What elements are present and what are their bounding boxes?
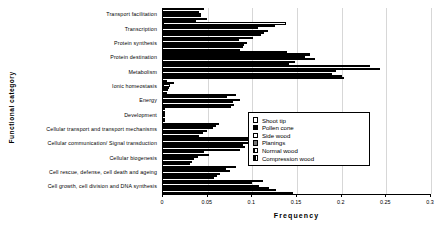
legend-swatch-icon (253, 133, 258, 138)
legend-item[interactable]: Shoot tip (253, 117, 365, 124)
category-label: Cellular biogenesis (4, 151, 160, 165)
x-axis-tick-label: 0.1 (248, 199, 256, 205)
legend-label: Side wood (262, 132, 290, 139)
x-axis-tick-label: 0.25 (380, 199, 391, 205)
category-label: Transport facilitation (4, 8, 160, 22)
legend-swatch-icon (253, 140, 258, 145)
bar-group (163, 94, 430, 108)
legend-label: Planings (262, 139, 285, 146)
bar-group (163, 22, 430, 36)
bar-group (163, 51, 430, 65)
legend: Shoot tipPollen coneSide woodPlaningsNor… (248, 112, 370, 166)
legend-item[interactable]: Compression wood (253, 155, 365, 162)
category-label: Ionic homeostasis (4, 80, 160, 94)
x-axis-tick (207, 194, 208, 197)
category-label: Transcription (4, 22, 160, 36)
bar-group (163, 180, 430, 194)
legend-item[interactable]: Pollen cone (253, 124, 365, 131)
legend-swatch-icon (253, 125, 258, 130)
y-axis-category-labels: Transport facilitationTranscriptionProte… (4, 8, 160, 194)
bar-group (163, 165, 430, 179)
category-label: Cell rescue, defense, cell death and age… (4, 165, 160, 179)
x-axis-tick (162, 194, 163, 197)
legend-swatch-icon (253, 148, 258, 153)
x-axis-tick-label: 0.15 (291, 199, 302, 205)
legend-label: Normal wood (262, 147, 298, 154)
category-label: Metabolism (4, 65, 160, 79)
bar-group (163, 8, 430, 22)
bar-chart: Functional category Transport facilitati… (0, 0, 437, 251)
category-label: Cellular communication/ Signal transduct… (4, 137, 160, 151)
x-axis-tick (296, 194, 297, 197)
legend-item[interactable]: Normal wood (253, 147, 365, 154)
category-label: Development (4, 108, 160, 122)
legend-label: Pollen cone (262, 124, 294, 131)
x-axis-tick-label: 0 (161, 199, 164, 205)
legend-item[interactable]: Planings (253, 139, 365, 146)
legend-swatch-icon (253, 117, 258, 122)
legend-label: Shoot tip (262, 117, 286, 124)
x-axis-tick (430, 194, 431, 197)
x-axis-tick-label: 0.2 (337, 199, 345, 205)
x-axis-tick-label: 0.05 (201, 199, 212, 205)
legend-swatch-icon (253, 155, 258, 160)
bar-group (163, 37, 430, 51)
category-label: Energy (4, 94, 160, 108)
x-axis-tick (385, 194, 386, 197)
category-label: Cellular transport and transport mechani… (4, 123, 160, 137)
legend-item[interactable]: Side wood (253, 132, 365, 139)
category-label: Protein destination (4, 51, 160, 65)
category-label: Cell growth, cell division and DNA synth… (4, 180, 160, 194)
category-label: Protein synthesis (4, 37, 160, 51)
x-axis-tick (251, 194, 252, 197)
legend-label: Compression wood (262, 155, 314, 162)
gridline (431, 8, 432, 194)
x-axis-tick-label: 0.3 (426, 199, 434, 205)
bar-group (163, 65, 430, 79)
bar-group (163, 80, 430, 94)
x-axis-tick (341, 194, 342, 197)
x-axis-title: Frequency (162, 212, 431, 219)
